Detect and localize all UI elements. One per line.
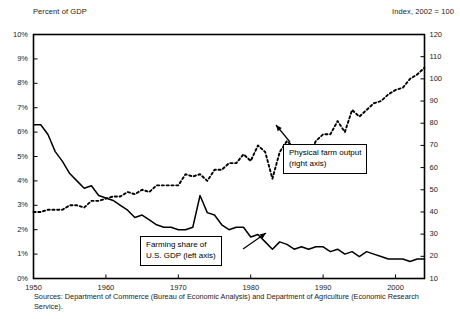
callout-farming-line2: U.S. GDP (left axis) — [146, 251, 216, 262]
ytick-left-3%: 3% — [2, 200, 28, 209]
ytick-right-10: 10 — [430, 274, 456, 283]
arrow-to-dotted-series — [276, 125, 290, 142]
ytick-left-9%: 9% — [2, 54, 28, 63]
ytick-left-10%: 10% — [2, 30, 28, 39]
ytick-left-4%: 4% — [2, 176, 28, 185]
callout-farming-line1: Farming share of — [146, 240, 216, 251]
ytick-right-30: 30 — [430, 229, 456, 238]
ytick-right-20: 20 — [430, 251, 456, 260]
xtick-1990: 1990 — [303, 283, 343, 292]
left-axis-title: Percent of GDP — [33, 7, 87, 16]
ytick-left-7%: 7% — [2, 103, 28, 112]
chart-figure: Percent of GDP Index, 2002 = 100 0%1%2%3… — [0, 0, 460, 319]
callout-farming-share: Farming share of U.S. GDP (left axis) — [140, 236, 222, 266]
xtick-1960: 1960 — [86, 283, 126, 292]
ytick-right-90: 90 — [430, 96, 456, 105]
ytick-left-2%: 2% — [2, 225, 28, 234]
ytick-left-5%: 5% — [2, 152, 28, 161]
ytick-right-100: 100 — [430, 74, 456, 83]
ytick-right-70: 70 — [430, 140, 456, 149]
ytick-right-80: 80 — [430, 118, 456, 127]
callout-physical-output: Physical farm output (right axis) — [283, 144, 367, 174]
xtick-1980: 1980 — [231, 283, 271, 292]
xtick-2000: 2000 — [376, 283, 416, 292]
callout-output-line1: Physical farm output — [289, 148, 361, 159]
callout-output-line2: (right axis) — [289, 159, 361, 170]
ytick-right-120: 120 — [430, 30, 456, 39]
source-note: Sources: Department of Commerce (Bureau … — [34, 292, 438, 311]
plot-area — [0, 0, 460, 319]
xtick-1970: 1970 — [158, 283, 198, 292]
ytick-left-1%: 1% — [2, 249, 28, 258]
ytick-right-110: 110 — [430, 52, 456, 61]
ytick-right-50: 50 — [430, 185, 456, 194]
ytick-right-60: 60 — [430, 163, 456, 172]
series-dotted — [34, 68, 425, 212]
ytick-right-40: 40 — [430, 207, 456, 216]
ytick-left-6%: 6% — [2, 127, 28, 136]
xtick-1950: 1950 — [14, 283, 54, 292]
ytick-left-8%: 8% — [2, 78, 28, 87]
ytick-left-0%: 0% — [2, 274, 28, 283]
right-axis-title: Index, 2002 = 100 — [392, 7, 454, 16]
